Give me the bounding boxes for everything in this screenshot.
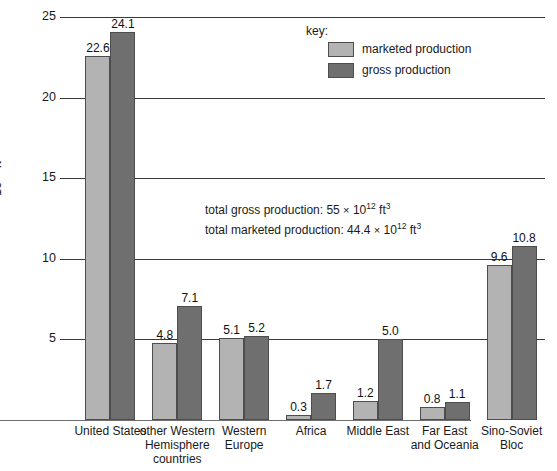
total-marketed-production-line: total marketed production: 44.4 × 1012 f… (205, 218, 421, 238)
legend-label-gross: gross production (362, 63, 451, 78)
x-axis-label-line: Europe (189, 438, 299, 452)
gridline-20 (77, 98, 545, 99)
total-marketed-unit-exponent: 3 (416, 221, 421, 231)
legend-label-marketed: marketed production (362, 42, 471, 57)
bar-value-label: 24.1 (104, 17, 141, 31)
total-gross-production-line: total gross production: 55 × 1012 ft3 (205, 198, 421, 218)
totals-annotation: total gross production: 55 × 1012 ft3 to… (205, 198, 421, 238)
legend-title: key: (306, 24, 328, 38)
legend-swatch-gross (328, 63, 354, 78)
x-axis-label-line: countries (122, 452, 232, 466)
x-axis-label-line: Sino-Soviet (457, 424, 557, 438)
x-axis-baseline (0, 420, 471, 421)
bar (110, 32, 135, 420)
y-tick-label-10: 10 (30, 251, 56, 265)
total-gross-unit-exponent: 3 (386, 201, 391, 211)
y-tick-label-25: 25 (30, 9, 56, 23)
total-gross-base: 10 (353, 203, 366, 217)
bar-value-label: 5.0 (372, 324, 409, 338)
gridline-25 (77, 17, 545, 18)
bar (487, 265, 512, 420)
bar (512, 246, 537, 420)
bar (311, 393, 336, 420)
total-gross-unit: ft (379, 203, 386, 217)
total-marketed-base: 10 (384, 223, 397, 237)
multiplication-sign-icon: × (343, 204, 349, 216)
x-axis-label: Sino-SovietBloc (457, 424, 557, 452)
bar (445, 402, 470, 420)
y-axis-title: 1012 ft3 (0, 156, 4, 196)
y-tick-label-5: 5 (30, 331, 56, 345)
bar-value-label: 1.1 (439, 387, 476, 401)
bar (152, 343, 177, 420)
bar (378, 339, 403, 420)
bar-value-label: 7.1 (171, 291, 208, 305)
bar (244, 336, 269, 420)
multiplication-sign-icon-2: × (374, 224, 380, 236)
y-axis-title-unit: ft (0, 161, 4, 172)
gridline-15 (77, 178, 545, 179)
y-axis-title-base: 10 (0, 182, 4, 196)
bar-value-label: 10.8 (506, 231, 543, 245)
total-gross-exponent: 12 (366, 201, 375, 211)
bar (177, 306, 202, 420)
total-marketed-production-text: total marketed production: 44.4 (205, 223, 370, 237)
bar (219, 338, 244, 420)
total-marketed-exponent: 12 (397, 221, 406, 231)
total-gross-production-text: total gross production: 55 (205, 203, 340, 217)
legend-swatch-marketed (328, 42, 354, 57)
gridline-10 (77, 259, 545, 260)
legend: key: marketed production gross productio… (296, 22, 486, 86)
bar (420, 407, 445, 420)
bar (353, 401, 378, 420)
x-axis-label-line: Bloc (457, 438, 557, 452)
bar-chart: 1012 ft3 510152025 22.624.14.87.15.15.20… (0, 0, 557, 471)
bar (85, 56, 110, 420)
bar-value-label: 1.7 (305, 378, 342, 392)
y-tick-label-20: 20 (30, 90, 56, 104)
bar-value-label: 5.2 (238, 321, 275, 335)
y-tick-label-15: 15 (30, 170, 56, 184)
